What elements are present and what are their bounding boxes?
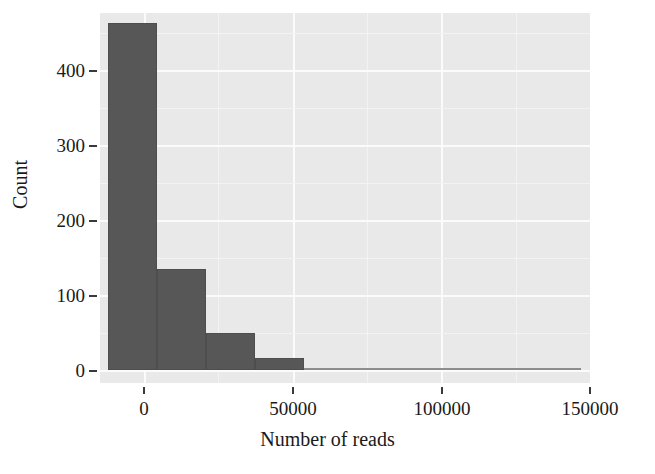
yticklabel-0: 0 bbox=[76, 360, 86, 382]
bar-hairline bbox=[352, 368, 401, 370]
xticklabel-50000: 50000 bbox=[269, 397, 317, 421]
tick-y-200 bbox=[89, 220, 97, 222]
bar bbox=[255, 358, 304, 370]
xticklabel-0: 0 bbox=[139, 397, 149, 421]
y-axis-title: Count bbox=[9, 105, 32, 265]
bar-hairline bbox=[548, 368, 581, 370]
bar-hairline bbox=[450, 368, 499, 370]
bar-hairline bbox=[499, 368, 548, 370]
bar-hairline bbox=[401, 368, 450, 370]
bar bbox=[108, 23, 157, 370]
tick-y-100 bbox=[89, 295, 97, 297]
yticklabel-200: 200 bbox=[57, 210, 86, 232]
bar-series bbox=[100, 13, 590, 383]
tick-x-150000 bbox=[589, 387, 591, 394]
yticklabel-400: 400 bbox=[57, 60, 86, 82]
bar bbox=[157, 269, 206, 370]
bar-hairline bbox=[304, 368, 353, 370]
x-axis-title: Number of reads bbox=[0, 428, 655, 451]
tick-x-100000 bbox=[441, 387, 443, 394]
tick-y-0 bbox=[89, 370, 97, 372]
xticklabel-100000: 100000 bbox=[414, 397, 471, 421]
tick-x-50000 bbox=[292, 387, 294, 394]
yticklabel-300: 300 bbox=[57, 135, 86, 157]
tick-x-0 bbox=[143, 387, 145, 394]
histogram-figure: 0 50000 100000 150000 0 100 200 300 400 … bbox=[0, 0, 655, 474]
tick-y-300 bbox=[89, 145, 97, 147]
plot-panel bbox=[100, 13, 590, 383]
tick-y-400 bbox=[89, 70, 97, 72]
yticklabel-100: 100 bbox=[57, 285, 86, 307]
xticklabel-150000: 150000 bbox=[562, 397, 619, 421]
bar bbox=[206, 333, 255, 370]
